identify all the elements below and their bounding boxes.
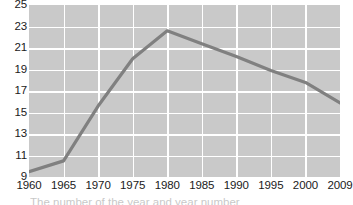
series-line-layer: [29, 5, 340, 177]
y-axis-tick-label: 23: [1, 21, 27, 32]
x-axis-tick-label: 1995: [258, 179, 283, 192]
y-axis-tick-label: 17: [1, 85, 27, 96]
x-axis-tick-label: 1985: [189, 179, 214, 192]
plot-area: [29, 5, 340, 177]
x-axis-tick-label: 2009: [327, 179, 352, 192]
x-axis-tick-label: 1975: [120, 179, 145, 192]
x-axis-tick-label: 1990: [224, 179, 249, 192]
y-axis-labels: 25232119171513119: [0, 0, 27, 182]
x-axis-tick-label: 1960: [16, 179, 41, 192]
y-axis-tick-label: 13: [1, 128, 27, 139]
x-axis-tick-label: 2000: [293, 179, 318, 192]
x-axis-tick-label: 1965: [51, 179, 76, 192]
clipped-caption-text: The number of the year and year number: [30, 196, 240, 205]
y-axis-tick-label: 11: [1, 150, 27, 161]
x-axis-labels: 1960196519701975198019851990199520002009: [29, 179, 340, 195]
y-axis-tick-label: 21: [1, 42, 27, 53]
clipped-caption-region: The number of the year and year number: [0, 196, 347, 205]
x-axis-tick-label: 1970: [86, 179, 111, 192]
y-axis-tick-label: 19: [1, 64, 27, 75]
y-axis-tick-label: 25: [1, 0, 27, 10]
series-line-value: [29, 31, 340, 172]
x-axis-tick-label: 1980: [155, 179, 180, 192]
y-axis-tick-label: 15: [1, 107, 27, 118]
